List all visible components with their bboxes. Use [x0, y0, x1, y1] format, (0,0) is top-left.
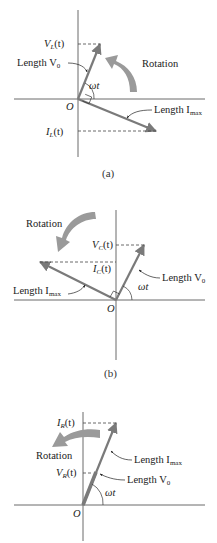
origin-label: O: [66, 101, 74, 112]
panel-a-inductor: VL(t) Length V0 Rotation ωt O Length Ima…: [14, 10, 205, 180]
length-imax-leader: [111, 451, 132, 460]
length-v0-label: Length V0: [17, 57, 61, 70]
phasor-diagram-figure: VL(t) Length V0 Rotation ωt O Length Ima…: [0, 0, 217, 543]
il-label: IL(t): [45, 126, 64, 139]
origin-label: O: [73, 508, 81, 519]
panel-c-resistor: Rotation IR(t) VR(t) Length Imax Length …: [14, 412, 205, 541]
omega-t-label: ωt: [105, 487, 116, 498]
angle-arc: [123, 286, 132, 300]
vc-label: VC(t): [92, 239, 114, 252]
voltage-phasor: [83, 472, 96, 505]
length-imax-label: Length Imax: [154, 104, 202, 117]
rotation-arrow-icon: [52, 429, 100, 447]
length-v0-leader: [139, 270, 160, 278]
origin-label: O: [107, 303, 115, 314]
omega-t-label: ωt: [89, 80, 100, 91]
panel-b-capacitor: Rotation VC(t) IC(t) Length V0 ωt Length…: [13, 210, 206, 380]
length-v0-label: Length V0: [162, 272, 206, 285]
rotation-label: Rotation: [36, 450, 73, 461]
length-imax-label: Length Imax: [13, 285, 61, 298]
ir-label: IR(t): [56, 417, 75, 430]
omega-t-label: ωt: [138, 281, 149, 292]
caption-b: (b): [104, 367, 117, 380]
caption-a: (a): [102, 167, 115, 180]
rotation-label: Rotation: [142, 58, 179, 69]
current-phasor: [78, 99, 156, 131]
vl-label: VL(t): [44, 38, 65, 51]
vr-label: VR(t): [56, 467, 77, 480]
rotation-arrow-icon: [105, 55, 137, 92]
rotation-label: Rotation: [26, 218, 63, 229]
length-imax-leader: [127, 110, 152, 118]
length-v0-label: Length V0: [127, 474, 171, 487]
length-v0-leader: [100, 474, 125, 480]
ic-label: IC(t): [92, 263, 112, 276]
length-imax-label: Length Imax: [134, 454, 182, 467]
length-imax-leader: [68, 285, 85, 294]
angle-arc: [92, 484, 103, 505]
